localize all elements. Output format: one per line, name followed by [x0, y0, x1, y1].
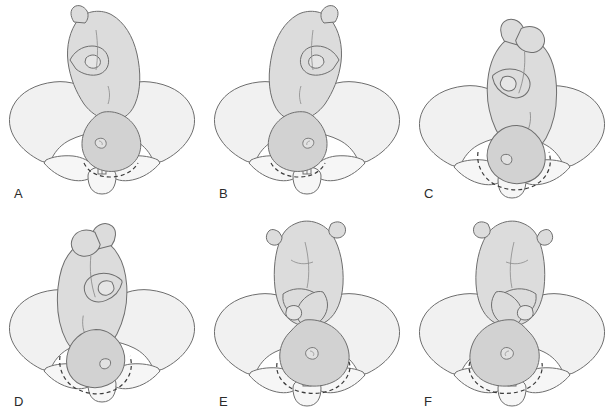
panel-e: E — [205, 208, 409, 416]
panel-f: F — [410, 208, 614, 416]
panel-label-e: E — [219, 395, 228, 408]
panel-c-illustration — [410, 0, 614, 208]
panel-a: A — [0, 0, 204, 208]
panel-d-illustration — [0, 208, 204, 416]
panel-f-illustration — [410, 208, 614, 416]
panel-label-c: C — [424, 187, 434, 200]
fetal-position-figure: A — [0, 0, 614, 416]
panel-a-illustration — [0, 0, 204, 208]
panel-label-b: B — [219, 187, 228, 200]
panel-c: C — [410, 0, 614, 208]
panel-label-d: D — [14, 395, 24, 408]
panel-d: D — [0, 208, 204, 416]
panel-label-a: A — [14, 187, 23, 200]
fetus-f — [470, 221, 553, 386]
panel-b-illustration — [205, 0, 409, 208]
fetus-b — [268, 6, 341, 172]
panel-e-illustration — [205, 208, 409, 416]
fetus-e — [266, 221, 349, 386]
panel-label-f: F — [424, 395, 432, 408]
panel-b: B — [205, 0, 409, 208]
fetus-a — [67, 6, 140, 172]
